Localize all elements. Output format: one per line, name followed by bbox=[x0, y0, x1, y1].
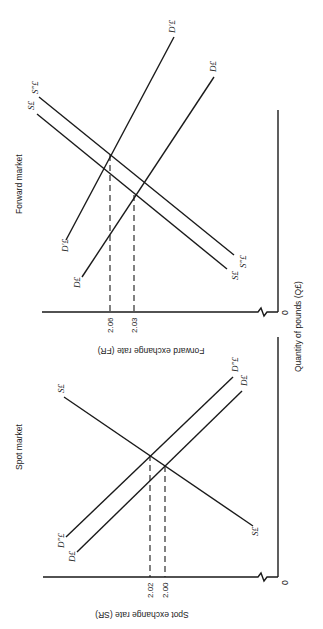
label-spot-demand-lower: D£ bbox=[67, 551, 77, 563]
spot-y-axis-label: Spot exchange rate (SR) bbox=[95, 610, 189, 620]
forward-demand-shifted-curve bbox=[66, 37, 174, 240]
spot-origin: 0 bbox=[280, 580, 290, 585]
tick-2.06: 2.06 bbox=[106, 317, 115, 333]
label-spot-supply: S£ bbox=[56, 384, 66, 394]
quantity-axis-label: Quantity of pounds (Q£) bbox=[293, 281, 303, 372]
exchange-market-diagram: D′£ D£ S″£ S£ D′£ D£ S″£ S£ 2.06 2.03 Fo… bbox=[0, 0, 323, 629]
spot-demand-curve bbox=[77, 391, 242, 552]
forward-supply-shifted-curve bbox=[39, 97, 234, 255]
label-forward-supply-shifted: S″£ bbox=[30, 81, 40, 94]
label-forward-demand-shifted-lower: D′£ bbox=[60, 239, 70, 253]
forward-demand-curve bbox=[82, 77, 214, 277]
spot-market-panel: S£ S£ D″£ D£ D″£ D£ 2.02 2.00 Spot excha… bbox=[14, 337, 290, 620]
forward-market-title: Forward market bbox=[14, 154, 24, 214]
spot-supply-curve bbox=[64, 397, 253, 526]
label-forward-demand: D£ bbox=[208, 61, 218, 73]
spot-market-title: Spot market bbox=[14, 424, 24, 470]
label-forward-demand-lower: D£ bbox=[72, 277, 82, 289]
label-forward-supply: S£ bbox=[26, 101, 36, 111]
label-spot-demand-shifted-lower: D″£ bbox=[56, 533, 66, 549]
label-spot-supply-lower: S£ bbox=[250, 527, 260, 537]
label-forward-supply-lower: S£ bbox=[230, 271, 240, 281]
forward-origin: 0 bbox=[280, 310, 290, 315]
forward-y-axis-label: Forward exchange rate (FR) bbox=[97, 346, 204, 356]
spot-price-axis bbox=[43, 573, 278, 581]
label-forward-supply-shifted-lower: S″£ bbox=[238, 255, 248, 268]
tick-2.03: 2.03 bbox=[130, 317, 139, 333]
tick-2.02: 2.02 bbox=[146, 582, 155, 598]
tick-2.00: 2.00 bbox=[161, 582, 170, 598]
label-spot-demand: D£ bbox=[239, 375, 249, 387]
label-spot-demand-shifted: D″£ bbox=[230, 357, 240, 373]
forward-price-axis bbox=[42, 308, 278, 316]
forward-market-panel: D′£ D£ S″£ S£ D′£ D£ S″£ S£ 2.06 2.03 Fo… bbox=[14, 20, 303, 372]
label-forward-demand-shifted: D′£ bbox=[167, 20, 177, 34]
